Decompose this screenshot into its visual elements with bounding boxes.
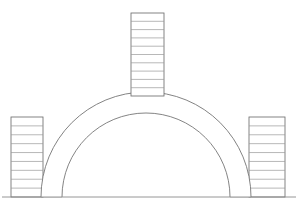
left-pier-outline [11,117,43,197]
arch-elevation-drawing [0,0,298,203]
right-pier-outline [249,117,285,197]
architectural-drawing-canvas [0,0,298,203]
semicircular-arch [41,92,251,197]
central-tower [131,13,164,96]
left-pier [11,117,43,197]
right-pier [249,117,285,197]
